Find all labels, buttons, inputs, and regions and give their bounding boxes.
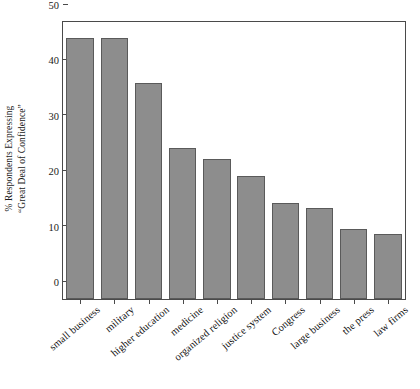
x-axis-tick-labels: small businessmilitaryhigher educationme… xyxy=(62,304,406,389)
y-axis-tick: 0 xyxy=(54,272,63,290)
bar xyxy=(101,38,128,299)
bar xyxy=(272,203,299,299)
y-axis-title-container: % Respondents Expressing “Great Deal of … xyxy=(0,0,30,320)
bar xyxy=(306,208,333,299)
y-axis-tick-label: 30 xyxy=(49,111,64,122)
bar-chart-figure: % Respondents Expressing “Great Deal of … xyxy=(0,0,420,389)
bar-series xyxy=(63,22,405,299)
y-axis-tick-label: 40 xyxy=(49,55,64,66)
y-axis-tick-label: 50 xyxy=(49,0,64,11)
bar xyxy=(135,83,162,299)
y-axis-tick: 50 xyxy=(49,0,64,13)
y-axis-tick-label: 20 xyxy=(49,166,64,177)
y-axis-tick: 30 xyxy=(49,106,64,124)
x-axis-tick-label: small business xyxy=(47,304,102,353)
y-axis-tick: 20 xyxy=(49,161,64,179)
x-axis-tick-label: the press xyxy=(340,304,376,337)
y-axis-title: % Respondents Expressing “Great Deal of … xyxy=(3,66,28,252)
bar xyxy=(374,234,401,299)
bar xyxy=(169,148,196,299)
y-axis-tick: 10 xyxy=(49,217,64,235)
bar xyxy=(203,159,230,299)
bar xyxy=(237,176,264,299)
y-axis-tick-label: 0 xyxy=(54,277,63,288)
y-axis-tick-label: 10 xyxy=(49,222,64,233)
y-axis-tick: 40 xyxy=(49,50,64,68)
y-axis-tick-mark xyxy=(63,4,68,5)
bar xyxy=(66,38,93,299)
plot-area: 01020304050 xyxy=(62,21,406,300)
bar xyxy=(340,229,367,299)
x-axis-tick-label: law firms xyxy=(372,304,410,339)
